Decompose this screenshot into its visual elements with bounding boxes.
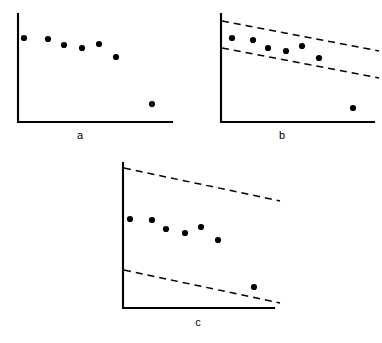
data-point	[163, 226, 169, 232]
panel-a	[18, 14, 172, 122]
data-point	[45, 36, 51, 42]
panel-c-upper-limit	[124, 168, 280, 201]
panel-a-caption: a	[60, 130, 100, 141]
data-point	[61, 42, 67, 48]
data-point	[113, 54, 119, 60]
panel-b-caption: b	[262, 130, 302, 141]
figure-container: a b c	[0, 0, 382, 343]
data-point	[79, 45, 85, 51]
panel-a-data-points	[21, 35, 155, 107]
data-point	[149, 217, 155, 223]
data-point	[350, 105, 356, 111]
panel-b-data-points	[229, 35, 356, 111]
panel-c-data-points	[127, 216, 257, 290]
data-point	[265, 45, 271, 51]
panel-c-control-limits	[124, 168, 280, 303]
multi-panel-scatter-chart	[0, 0, 382, 343]
data-point	[96, 41, 102, 47]
data-point	[229, 35, 235, 41]
panel-b-lower-limit	[222, 48, 379, 78]
panel-b	[221, 14, 379, 122]
panel-c	[123, 163, 280, 308]
data-point	[283, 48, 289, 54]
data-point	[198, 224, 204, 230]
data-point	[299, 43, 305, 49]
data-point	[250, 37, 256, 43]
data-point	[127, 216, 133, 222]
data-point	[215, 237, 221, 243]
data-point	[251, 284, 257, 290]
data-point	[182, 230, 188, 236]
panel-c-caption: c	[178, 317, 218, 328]
data-point	[316, 55, 322, 61]
panel-a-axes	[18, 14, 172, 122]
data-point	[149, 101, 155, 107]
data-point	[21, 35, 27, 41]
panel-b-control-limits	[222, 21, 379, 78]
